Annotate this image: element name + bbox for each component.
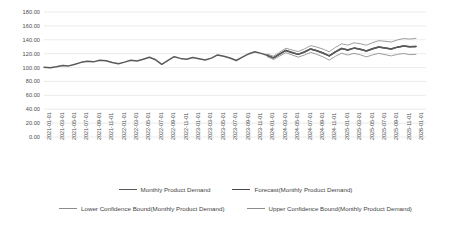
x-axis-tick-label: 2024-11-01 <box>331 113 337 140</box>
x-axis-tick-label: 2022-09-01 <box>170 112 176 140</box>
x-axis-tick-label: 2023-01-01 <box>195 112 201 140</box>
x-axis-tick-label: 2022-05-01 <box>145 112 151 140</box>
x-axis-tick-label: 2025-11-01 <box>406 113 412 140</box>
x-axis-tick-label: 2022-01-01 <box>121 112 127 140</box>
legend-row-top: Monthly Product Demand Forecast(Monthly … <box>0 186 471 193</box>
x-axis-tick-label: 2021-09-01 <box>96 112 102 140</box>
x-axis-tick-label: 2024-01-01 <box>269 112 275 140</box>
legend-entry[interactable]: Lower Confidence Bound(Monthly Product D… <box>59 205 224 212</box>
x-axis-tick-label: 2023-07-01 <box>232 112 238 140</box>
legend-label: Upper Confidence Bound(Monthly Product D… <box>269 205 412 212</box>
legend-swatch-icon <box>59 208 77 209</box>
x-axis-tick-label: 2021-03-01 <box>59 112 65 140</box>
x-axis-tick-label: 2024-07-01 <box>307 112 313 140</box>
x-axis-tick-label: 2024-09-01 <box>319 112 325 140</box>
legend-label: Monthly Product Demand <box>141 186 211 193</box>
legend-swatch-icon <box>232 189 250 190</box>
x-axis-tick-label: 2025-05-01 <box>369 112 375 140</box>
x-axis-tick-label: 2026-01-01 <box>418 112 424 140</box>
x-axis-tick-label: 2021-05-01 <box>71 112 77 140</box>
legend-label: Lower Confidence Bound(Monthly Product D… <box>81 205 224 212</box>
legend-row-bottom: Lower Confidence Bound(Monthly Product D… <box>0 205 471 212</box>
chart-legend: Monthly Product Demand Forecast(Monthly … <box>0 186 471 231</box>
x-axis-tick-label: 2025-07-01 <box>381 112 387 140</box>
legend-swatch-icon <box>119 189 137 190</box>
x-axis-tick-label: 2023-03-01 <box>207 112 213 140</box>
legend-entry[interactable]: Forecast(Monthly Product Demand) <box>232 186 352 193</box>
legend-entry[interactable]: Monthly Product Demand <box>119 186 211 193</box>
x-axis-tick-label: 2021-07-01 <box>83 112 89 140</box>
x-axis-tick-label: 2025-01-01 <box>344 112 350 140</box>
legend-swatch-icon <box>247 208 265 209</box>
x-axis-tick-label: 2022-11-01 <box>183 113 189 140</box>
x-axis-tick-label: 2021-11-01 <box>108 113 114 140</box>
x-axis-tick-label: 2023-09-01 <box>245 112 251 140</box>
forecast-chart: 0.0020.0040.0060.0080.00100.00120.00140.… <box>0 0 471 231</box>
legend-entry[interactable]: Upper Confidence Bound(Monthly Product D… <box>247 205 412 212</box>
x-axis-tick-label: 2023-05-01 <box>220 112 226 140</box>
legend-label: Forecast(Monthly Product Demand) <box>254 186 352 193</box>
x-axis-tick-label: 2024-05-01 <box>294 112 300 140</box>
x-axis-tick-label: 2023-11-01 <box>257 113 263 140</box>
x-axis-tick-label: 2024-03-01 <box>282 112 288 140</box>
x-axis-tick-label: 2025-09-01 <box>393 112 399 140</box>
x-axis-tick-label: 2022-07-01 <box>158 112 164 140</box>
x-axis-tick-label: 2021-01-01 <box>46 112 52 140</box>
x-axis-tick-label: 2025-03-01 <box>356 112 362 140</box>
x-axis-tick-label: 2022-03-01 <box>133 112 139 140</box>
